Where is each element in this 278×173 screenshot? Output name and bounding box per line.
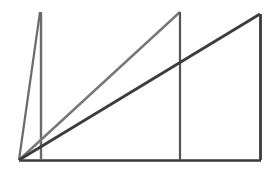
figure-canvas <box>0 0 278 173</box>
line-figure-svg <box>0 0 278 173</box>
